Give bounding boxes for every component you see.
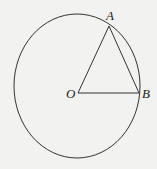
geometry-diagram: A O B [0, 0, 157, 169]
segment-OA [78, 26, 109, 93]
label-A: A [105, 8, 114, 23]
segment-AB [109, 26, 139, 93]
label-O: O [66, 86, 76, 101]
label-B: B [142, 86, 150, 101]
circle [14, 14, 140, 158]
